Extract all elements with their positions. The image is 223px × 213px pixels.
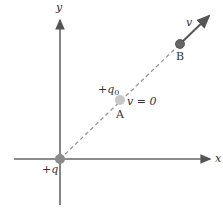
velocity-label: v: [186, 17, 192, 28]
velocity-zero-label: v = 0: [127, 96, 156, 107]
velocity-arrow: [180, 16, 209, 44]
diagram-canvas: [0, 0, 223, 213]
point-b-dot: [176, 40, 185, 49]
x-axis-label: x: [215, 153, 221, 164]
point-a-label: A: [116, 109, 124, 120]
source-charge-label: +q: [42, 164, 58, 175]
test-charge-label: +q0: [98, 84, 119, 97]
y-axis-label: y: [56, 2, 62, 13]
point-b-label: B: [176, 51, 184, 62]
